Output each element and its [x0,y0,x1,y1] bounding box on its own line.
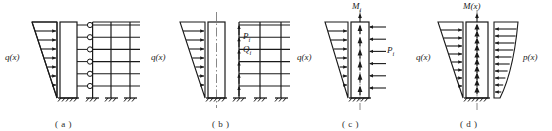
label-load-qx-a: q(x) [5,52,20,62]
load-curve-d-right [494,22,518,98]
shear-wall-a [60,22,77,98]
label-load-qx-b: q(x) [151,52,166,62]
caption-b: ( b ) [212,119,230,129]
panel-c-drawing [290,0,415,131]
load-triangle-a [32,22,57,98]
label-moment-mx-d: M(x) [463,1,481,11]
moment-arrow-c [358,13,362,22]
shear-wall-b [208,12,225,108]
frame-columns-a [93,22,130,98]
load-triangle-b [180,22,205,98]
label-load-qx-d: q(x) [416,52,431,62]
reaction-arrows-c [369,25,386,89]
label-force-pi-b: Pi [243,31,250,43]
label-load-px-d: p(x) [523,52,538,62]
hinge-circles-a [87,22,92,88]
load-triangle-c [325,22,348,98]
link-beams-a [77,25,88,86]
panel-d: M(x) q(x) p(x) ( d ) [415,0,552,131]
supports-a [58,98,137,102]
moment-arrow-d [475,13,479,22]
caption-d: ( d ) [460,119,478,129]
panel-c: Mi q(x) Pi ( c ) [290,0,415,131]
structural-diagram-figure: q(x) ( a ) [0,0,552,131]
label-load-qx-c: q(x) [297,52,312,62]
support-d [464,98,490,102]
panel-b: q(x) Pi Qi ( b ) [140,0,290,131]
panel-a: q(x) ( a ) [0,0,140,131]
panel-a-drawing [0,0,140,131]
supports-b [206,98,288,102]
label-force-pi-c: Pi [387,45,394,57]
label-force-qi-b: Qi [243,44,251,56]
label-moment-mi-c: Mi [352,1,361,13]
caption-a: ( a ) [55,119,72,129]
caption-c: ( c ) [342,119,359,129]
panel-b-drawing [140,0,290,131]
frame-beams-a [93,22,140,86]
panel-d-drawing [415,0,552,131]
